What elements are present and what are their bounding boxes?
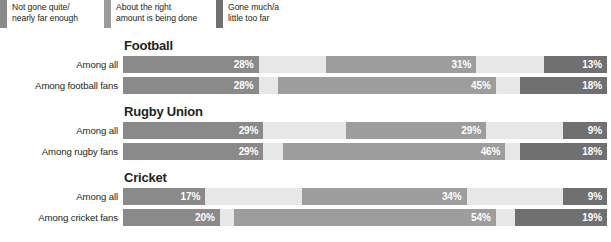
bar-segment-about_right: 54% [234, 209, 495, 226]
bar-segment-too_far: 19% [515, 209, 607, 226]
bar-segment-value: 18% [520, 80, 607, 91]
chart-row: Among cricket fans20%54%19% [0, 209, 611, 226]
chart-group-rugby-union: Rugby UnionAmong all29%29%9%Among rugby … [0, 104, 611, 166]
row-label: Among cricket fans [0, 209, 118, 226]
row-label: Among rugby fans [0, 143, 118, 160]
bar-track: 29%46%18% [123, 143, 607, 160]
row-label: Among all [0, 122, 118, 139]
bar-segment-not_far_enough: 28% [123, 77, 259, 94]
bar-segment-too_far: 9% [563, 122, 607, 139]
bar-track: 29%29%9% [123, 122, 607, 139]
bar-segment-about_right: 46% [283, 143, 506, 160]
bar-segment-value: 29% [123, 146, 263, 157]
bar-segment-too_far: 9% [563, 188, 607, 205]
bar-track: 28%31%13% [123, 56, 607, 73]
bar-segment-value: 34% [302, 191, 467, 202]
bar-segment-value: 19% [515, 212, 607, 223]
bar-segment-about_right: 29% [346, 122, 486, 139]
bar-segment-not_far_enough: 28% [123, 56, 259, 73]
bar-segment-too_far: 13% [544, 56, 607, 73]
chart-legend: Not gone quite/ nearly far enoughAbout t… [0, 0, 611, 33]
legend-label-about_right: About the right amount is being done [116, 0, 197, 30]
chart-group-cricket: CricketAmong all17%34%9%Among cricket fa… [0, 170, 611, 232]
bar-segment-not_far_enough: 29% [123, 143, 263, 160]
chart-group-football: FootballAmong all28%31%13%Among football… [0, 38, 611, 100]
chart-row: Among football fans28%45%18% [0, 77, 611, 94]
group-title: Cricket [124, 170, 167, 185]
bar-segment-value: 13% [544, 59, 607, 70]
bar-track: 28%45%18% [123, 77, 607, 94]
legend-item-too_far: Gone much/a little too far [216, 0, 312, 30]
legend-item-not_far_enough: Not gone quite/ nearly far enough [0, 0, 98, 30]
bar-segment-value: 29% [123, 125, 263, 136]
legend-swatch-not_far_enough [0, 0, 7, 28]
legend-swatch-about_right [104, 0, 111, 28]
bar-segment-not_far_enough: 17% [123, 188, 205, 205]
bar-segment-value: 28% [123, 59, 259, 70]
row-label: Among all [0, 188, 118, 205]
legend-swatch-too_far [216, 0, 223, 28]
bar-segment-value: 17% [123, 191, 205, 202]
bar-segment-value: 31% [326, 59, 476, 70]
bar-segment-value: 46% [283, 146, 506, 157]
bar-segment-value: 45% [278, 80, 496, 91]
chart-row: Among rugby fans29%46%18% [0, 143, 611, 160]
bar-segment-value: 28% [123, 80, 259, 91]
chart-row: Among all28%31%13% [0, 56, 611, 73]
bar-segment-value: 18% [520, 146, 607, 157]
bar-segment-value: 9% [563, 191, 607, 202]
stacked-bar-chart: Not gone quite/ nearly far enoughAbout t… [0, 0, 611, 242]
bar-segment-value: 20% [123, 212, 220, 223]
chart-row: Among all17%34%9% [0, 188, 611, 205]
bar-segment-not_far_enough: 29% [123, 122, 263, 139]
row-label: Among all [0, 56, 118, 73]
bar-segment-too_far: 18% [520, 143, 607, 160]
group-title: Rugby Union [124, 104, 203, 119]
bar-segment-not_far_enough: 20% [123, 209, 220, 226]
bar-segment-about_right: 34% [302, 188, 467, 205]
bar-segment-about_right: 45% [278, 77, 496, 94]
bar-segment-too_far: 18% [520, 77, 607, 94]
bar-segment-about_right: 31% [326, 56, 476, 73]
bar-segment-value: 54% [234, 212, 495, 223]
legend-label-too_far: Gone much/a little too far [228, 0, 279, 30]
group-title: Football [124, 38, 173, 53]
bar-track: 17%34%9% [123, 188, 607, 205]
row-label: Among football fans [0, 77, 118, 94]
bar-segment-value: 29% [346, 125, 486, 136]
legend-item-about_right: About the right amount is being done [104, 0, 210, 30]
chart-row: Among all29%29%9% [0, 122, 611, 139]
bar-track: 20%54%19% [123, 209, 607, 226]
bar-segment-value: 9% [563, 125, 607, 136]
legend-label-not_far_enough: Not gone quite/ nearly far enough [12, 0, 78, 30]
